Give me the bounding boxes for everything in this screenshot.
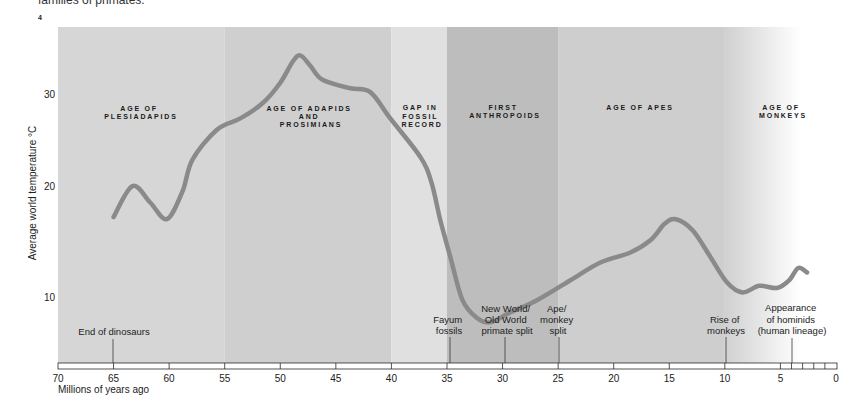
period-label-line: MONKEYS [759, 112, 807, 119]
x-tick-label: 60 [164, 373, 176, 384]
x-tick-label: 5 [778, 373, 784, 384]
period-label-line: FOSSIL [402, 113, 438, 120]
x-tick-label: 10 [719, 373, 731, 384]
event-label-line: (human lineage) [758, 325, 827, 336]
period-label-line: AGE OF [120, 105, 158, 112]
figure-number: 4 [38, 14, 42, 21]
event-label-line: monkeys [707, 325, 745, 336]
y-axis-title: Average world temperature °C [27, 126, 38, 260]
event-label-line: monkey [540, 314, 574, 325]
x-tick-label: 30 [497, 373, 509, 384]
x-tick-label: 20 [608, 373, 620, 384]
period-label-line: AGE OF ADAPIDS [267, 105, 352, 112]
period-label-apes: AGE OF APES [606, 104, 673, 111]
period-band [391, 27, 447, 363]
period-label-line: PROSIMIANS [280, 121, 342, 128]
event-label-line: fossils [436, 325, 463, 336]
event-label-line: of hominids [766, 314, 815, 325]
period-band [558, 27, 725, 363]
x-tick-label: 35 [441, 373, 453, 384]
x-tick-label: 40 [386, 373, 398, 384]
x-tick-label: 55 [219, 373, 231, 384]
caption-fragment: families of primates. [38, 0, 145, 7]
y-tick-label: 20 [44, 181, 56, 192]
x-axis-title: Millions of years ago [58, 384, 150, 395]
period-label-line: AGE OF [762, 104, 800, 111]
event-label-line: End of dinosaurs [78, 326, 150, 337]
temperature-timeline-chart: families of primates. 4 AGE OF PLESIADAP… [0, 0, 867, 414]
x-axis-bar [58, 363, 837, 369]
x-tick-label: 65 [108, 373, 120, 384]
y-axis: 30 20 10 Average world temperature °C [27, 89, 55, 304]
event-label-line: primate split [481, 325, 533, 336]
event-label-line: Old World [485, 314, 527, 325]
period-label-monkeys: AGE OF MONKEYS [759, 104, 807, 119]
period-label-line: FIRST [489, 104, 518, 111]
y-tick-label: 30 [44, 89, 56, 100]
x-tick-label: 70 [52, 373, 64, 384]
x-tick-label: 0 [833, 373, 839, 384]
x-tick-label: 45 [330, 373, 342, 384]
period-label-line: AND [299, 113, 320, 120]
period-label-line: GAP IN [403, 104, 438, 111]
event-label-line: New World/ [481, 303, 530, 314]
event-label-fayum-fossils: Fayum fossils [433, 314, 465, 336]
period-label-gap: GAP IN FOSSIL RECORD [401, 104, 442, 128]
event-label-line: Appearance [765, 302, 816, 313]
y-tick-label: 10 [44, 292, 56, 303]
period-bands [58, 27, 836, 363]
x-tick-label: 50 [275, 373, 287, 384]
event-label-primate-split: New World/ Old World primate split [481, 303, 533, 336]
x-tick-label: 15 [664, 373, 676, 384]
period-label-line: ANTHROPOIDS [469, 112, 541, 119]
x-tick-label: 25 [553, 373, 565, 384]
event-label-rise-of-monkeys: Rise of monkeys [707, 314, 745, 336]
period-label-line: RECORD [401, 121, 442, 128]
event-label-hominids: Appearance of hominids (human lineage) [758, 302, 827, 336]
event-label-line: Ape/ [547, 303, 567, 314]
period-band [225, 27, 392, 363]
event-label-end-of-dinosaurs: End of dinosaurs [78, 326, 150, 337]
x-axis: 7065605550454035302520151050 [52, 363, 839, 384]
period-band [58, 27, 225, 363]
period-label-line: PLESIADAPIDS [104, 113, 177, 120]
event-label-line: split [550, 325, 567, 336]
event-label-line: Fayum [433, 314, 462, 325]
event-label-line: Rise of [710, 314, 740, 325]
period-label-line: AGE OF APES [606, 104, 673, 111]
